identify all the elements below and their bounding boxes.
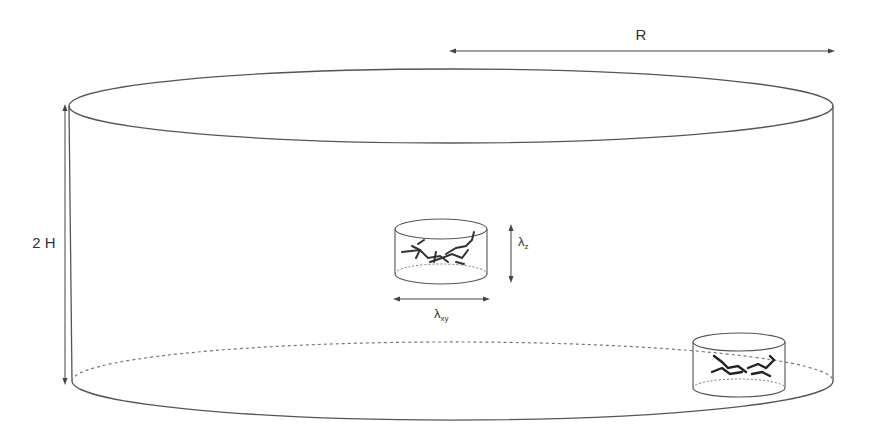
lambda-xy-dimension: λxy	[396, 299, 487, 323]
outer-bottom-back-arc	[72, 342, 833, 381]
lambda-z-label: λz	[518, 234, 529, 251]
outer-left-edge	[69, 106, 72, 381]
inner-cylinder-center	[395, 219, 487, 284]
inner-cylinder-bottom-right	[693, 333, 785, 397]
radius-label: R	[636, 26, 647, 43]
radius-dimension: R	[452, 26, 832, 51]
outer-bottom-front-arc	[72, 381, 833, 420]
height-dimension: 2 H	[32, 107, 65, 382]
lambda-z-dimension: λz	[511, 227, 529, 280]
molecule-icon	[712, 356, 774, 376]
height-label: 2 H	[32, 234, 55, 251]
outer-cylinder	[69, 69, 833, 420]
outer-top-ellipse	[69, 69, 833, 143]
diagram-canvas: R 2 H λz λxy	[0, 0, 869, 435]
lambda-xy-label: λxy	[434, 306, 449, 323]
